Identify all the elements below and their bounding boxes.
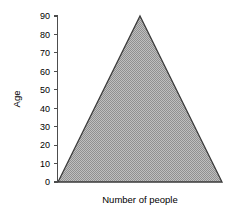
y-tick-label-50: 50 [40, 85, 50, 95]
y-tick-label-90: 90 [40, 11, 50, 21]
y-tick-label-40: 40 [40, 104, 50, 114]
x-axis-title: Number of people [102, 194, 178, 205]
y-axis-title: Age [11, 91, 22, 108]
population-age-triangle-chart: 90 80 70 60 50 40 30 20 10 0 Age Number … [0, 0, 233, 212]
y-tick-label-20: 20 [40, 140, 50, 150]
y-tick-label-30: 30 [40, 122, 50, 132]
chart-figure: 90 80 70 60 50 40 30 20 10 0 Age Number … [0, 0, 233, 212]
y-tick-label-0: 0 [45, 177, 50, 187]
y-tick-label-70: 70 [40, 48, 50, 58]
y-tick-label-80: 80 [40, 30, 50, 40]
y-tick-label-10: 10 [40, 159, 50, 169]
y-tick-label-60: 60 [40, 67, 50, 77]
